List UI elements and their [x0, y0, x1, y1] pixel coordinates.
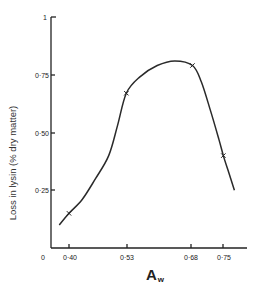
y-axis — [51, 17, 56, 248]
y-tick-0.25: 0·25 — [35, 187, 49, 194]
y-tick-0.50: 0·50 — [35, 130, 49, 137]
x-marker — [190, 63, 194, 67]
chart-svg: 1 0·75 0·50 0·25 0 0·40 0·53 0·68 0·75 L… — [0, 0, 258, 289]
y-tick-1: 1 — [43, 14, 47, 21]
x-tick-0.68: 0·68 — [184, 254, 198, 261]
x-axis-label-main: A — [146, 266, 157, 283]
x-tick-0: 0 — [41, 254, 45, 261]
x-axis — [51, 244, 247, 248]
lysin-loss-chart: 1 0·75 0·50 0·25 0 0·40 0·53 0·68 0·75 L… — [0, 0, 258, 289]
data-markers — [67, 63, 226, 215]
x-axis-label-subscript: w — [157, 275, 165, 284]
x-marker — [67, 211, 71, 215]
y-axis-label: Loss in lysin (% dry matter) — [7, 106, 18, 221]
x-axis-label: Aw — [146, 266, 165, 284]
x-tick-0.75: 0·75 — [217, 254, 231, 261]
y-tick-0.75: 0·75 — [35, 72, 49, 79]
x-tick-0.40: 0·40 — [63, 254, 77, 261]
data-curve — [59, 61, 234, 225]
x-tick-0.53: 0·53 — [120, 254, 134, 261]
